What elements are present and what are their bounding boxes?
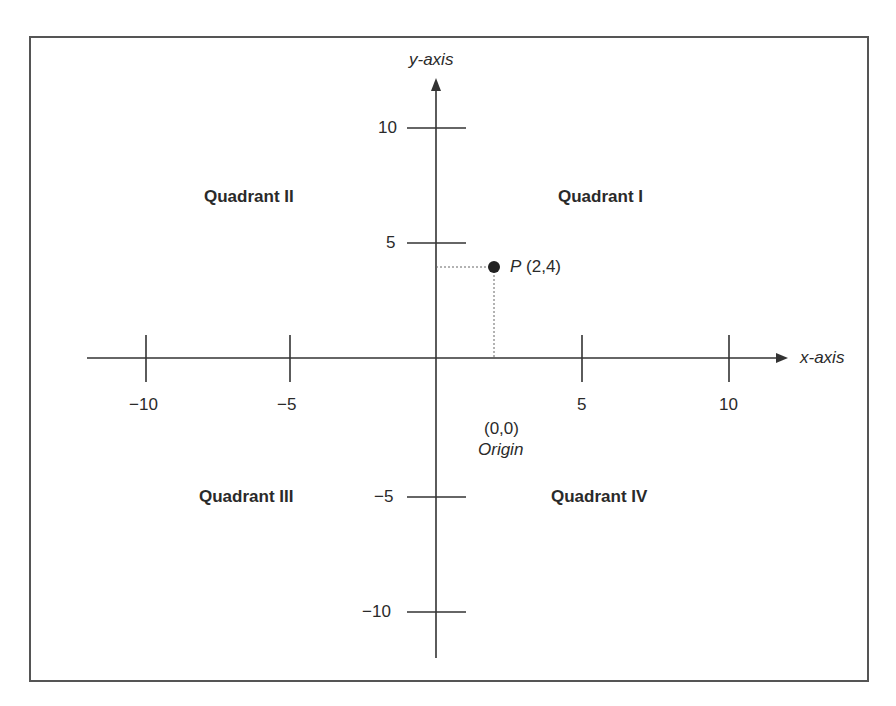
quadrant-2-label: Quadrant II (204, 187, 294, 207)
point-p-coords: (2,4) (526, 257, 561, 276)
x-axis-label: x-axis (800, 348, 844, 368)
x-tick-label: −10 (129, 395, 158, 415)
x-tick-label: 10 (719, 395, 738, 415)
quadrant-4-label: Quadrant IV (551, 487, 647, 507)
point-p-label: P (2,4) (510, 257, 561, 277)
y-axis-label: y-axis (409, 50, 453, 70)
point-p-marker (488, 261, 500, 273)
quadrant-3-label: Quadrant III (199, 487, 293, 507)
quadrant-1-label: Quadrant I (558, 187, 643, 207)
y-tick-label: 5 (386, 233, 395, 253)
origin-coords: (0,0) (484, 419, 519, 439)
x-tick-label: −5 (277, 395, 296, 415)
y-tick-label: 10 (378, 118, 397, 138)
x-tick-label: 5 (577, 395, 586, 415)
origin-label: Origin (478, 440, 523, 460)
x-axis-arrow-icon (776, 353, 788, 363)
coordinate-plane (0, 0, 896, 706)
y-tick-label: −5 (374, 487, 393, 507)
y-axis-arrow-icon (431, 78, 441, 91)
y-tick-label: −10 (362, 602, 391, 622)
point-p-name: P (510, 257, 521, 276)
